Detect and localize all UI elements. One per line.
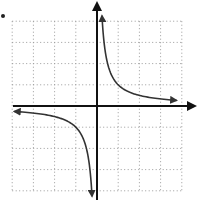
- axes: [13, 3, 195, 200]
- curve-branch-quadrant-3: [14, 111, 92, 196]
- hyperbola-chart: [0, 0, 197, 202]
